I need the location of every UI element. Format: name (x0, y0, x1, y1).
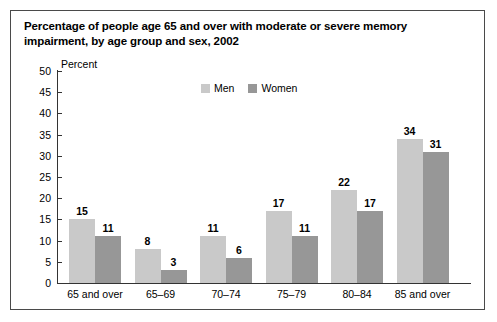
bar-women (95, 236, 121, 283)
bar-men (266, 211, 292, 283)
y-axis-tick-label: 15 (15, 214, 51, 225)
bar-value-label: 11 (292, 223, 318, 234)
bar-men (397, 139, 423, 283)
bar-men (331, 190, 357, 283)
y-axis-tick-label: 0 (15, 278, 51, 289)
bar-men (200, 236, 226, 283)
bar-women (161, 270, 187, 283)
bar-men (135, 249, 161, 283)
y-axis-tick-label: 35 (15, 130, 51, 141)
bar-value-label: 22 (331, 177, 357, 188)
bar-men (69, 219, 95, 283)
bar-value-label: 34 (397, 126, 423, 137)
bar-value-label: 3 (161, 257, 187, 268)
bar-women (423, 152, 449, 283)
y-axis-title: Percent (61, 58, 97, 70)
bar-value-label: 6 (226, 245, 252, 256)
bar-value-label: 11 (200, 223, 226, 234)
chart-figure: Percentage of people age 65 and over wit… (10, 10, 485, 310)
bar-value-label: 17 (357, 198, 383, 209)
y-axis-tick-label: 25 (15, 172, 51, 183)
bar-value-label: 31 (423, 139, 449, 150)
y-axis-tick (58, 283, 62, 284)
y-axis-tick-label: 40 (15, 108, 51, 119)
y-axis-tick-label: 20 (15, 193, 51, 204)
x-axis-line (57, 283, 471, 284)
bar-value-label: 11 (95, 223, 121, 234)
bar-value-label: 17 (266, 198, 292, 209)
y-axis-tick-label: 10 (15, 236, 51, 247)
y-axis-tick-label: 45 (15, 87, 51, 98)
bar-value-label: 15 (69, 206, 95, 217)
y-axis-tick-label: 50 (15, 66, 51, 77)
bar-value-label: 8 (135, 236, 161, 247)
bar-women (226, 258, 252, 283)
x-axis-label: 85 and over (383, 289, 463, 300)
bar-women (357, 211, 383, 283)
chart-title: Percentage of people age 65 and over wit… (24, 19, 464, 49)
plot-area: 151183116171122173431 (57, 71, 471, 283)
y-axis-tick-label: 5 (15, 257, 51, 268)
y-axis-tick-label: 30 (15, 151, 51, 162)
bar-women (292, 236, 318, 283)
